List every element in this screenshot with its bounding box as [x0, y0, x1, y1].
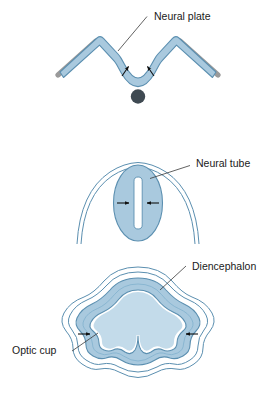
panel-neural-tube: Neural tube	[77, 157, 250, 244]
leader-diencephalon	[160, 266, 186, 290]
label-diencephalon: Diencephalon	[192, 260, 256, 272]
label-optic-cup: Optic cup	[12, 344, 57, 356]
neural-plate-band	[60, 37, 216, 87]
figure-root: Neural plate Neural tube	[0, 0, 276, 394]
neural-tube-lumen	[134, 177, 142, 229]
leader-neural-plate	[118, 17, 147, 52]
panel-diencephalon: Diencephalon Optic cup	[12, 260, 256, 378]
panel-neural-plate: Neural plate	[58, 10, 218, 104]
neurulation-figure: Neural plate Neural tube	[0, 0, 276, 394]
label-neural-plate: Neural plate	[154, 10, 211, 22]
notochord-dot	[131, 89, 145, 103]
label-neural-tube: Neural tube	[196, 157, 250, 169]
